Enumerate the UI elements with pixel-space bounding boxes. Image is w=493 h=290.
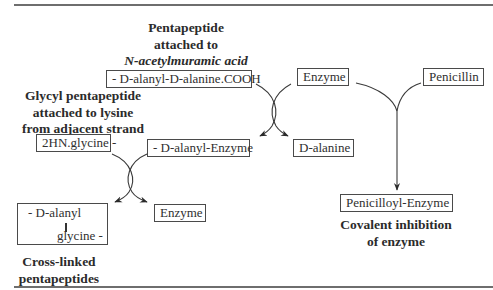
- enzyme-merge-line: [356, 83, 397, 111]
- reaction-arrows: [0, 0, 493, 290]
- penicillin-merge-line: [397, 83, 421, 111]
- arrow-to-enzyme-bottom: [128, 154, 147, 202]
- arrow-to-crosslink: [112, 154, 133, 202]
- arrow-to-d-alanyl-enzyme: [256, 84, 276, 136]
- arrow-to-d-alanine: [272, 84, 291, 136]
